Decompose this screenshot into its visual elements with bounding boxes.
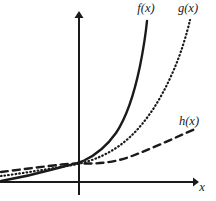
exponential-comparison-figure: f(x) g(x) h(x) x — [0, 0, 216, 201]
curve-f — [1, 21, 147, 181]
labels-group: f(x) g(x) h(x) x — [137, 1, 205, 194]
curves-group — [1, 20, 195, 181]
x-axis-label: x — [198, 180, 205, 194]
figure-canvas: f(x) g(x) h(x) x — [0, 0, 216, 201]
curve-label-f: f(x) — [137, 1, 154, 15]
y-axis-arrow-icon — [75, 11, 84, 18]
x-axis-arrow-icon — [193, 178, 199, 187]
curve-label-h: h(x) — [179, 114, 199, 128]
curve-label-g: g(x) — [178, 1, 198, 15]
